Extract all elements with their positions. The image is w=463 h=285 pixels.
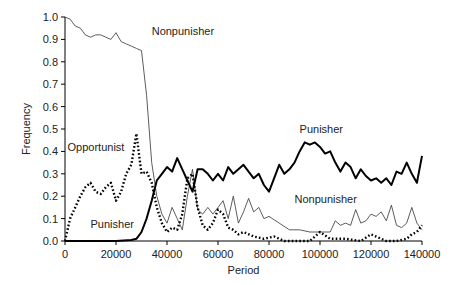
x-tick-label: 60000 (203, 248, 234, 260)
x-tick-label: 140000 (404, 248, 441, 260)
y-tick-label: 0.3 (43, 168, 58, 180)
y-tick-label: 0.2 (43, 190, 58, 202)
y-tick-label: 0.6 (43, 101, 58, 113)
annotation-label: Nonpunisher (152, 25, 215, 37)
y-tick-label: 0.8 (43, 56, 58, 68)
x-axis-label: Period (228, 264, 260, 276)
y-tick-label: 0.0 (43, 235, 58, 247)
x-tick-label: 0 (62, 248, 68, 260)
series-nonpunisher (65, 17, 422, 232)
x-tick-label: 100000 (302, 248, 339, 260)
annotation-label: Opportunist (68, 141, 125, 153)
line-chart: 0.00.10.20.30.40.50.60.70.80.91.00200004… (0, 0, 463, 285)
x-tick-label: 80000 (254, 248, 285, 260)
annotation-label: Nonpunisher (295, 193, 358, 205)
annotation-label: Punisher (91, 218, 135, 230)
x-tick-label: 40000 (152, 248, 183, 260)
chart: 0.00.10.20.30.40.50.60.70.80.91.00200004… (0, 0, 463, 285)
x-tick-label: 120000 (353, 248, 390, 260)
y-axis-label: Frequency (20, 103, 32, 155)
y-tick-label: 0.5 (43, 123, 58, 135)
y-tick-label: 0.4 (43, 145, 58, 157)
y-tick-label: 0.9 (43, 33, 58, 45)
annotation-label: Punisher (300, 123, 344, 135)
y-tick-label: 0.7 (43, 78, 58, 90)
x-tick-label: 20000 (101, 248, 132, 260)
y-tick-label: 0.1 (43, 213, 58, 225)
y-tick-label: 1.0 (43, 11, 58, 23)
